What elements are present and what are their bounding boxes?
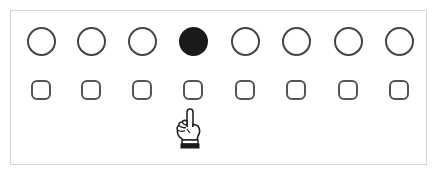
circle-option[interactable] [231,27,260,56]
square-option[interactable] [389,80,409,100]
square-option[interactable] [286,80,306,100]
circle-option[interactable] [385,27,414,56]
square-option[interactable] [132,80,152,100]
square-option[interactable] [31,80,51,100]
puzzle-panel [10,10,427,165]
circle-option[interactable] [77,27,106,56]
square-option[interactable] [338,80,358,100]
circle-option[interactable] [334,27,363,56]
circle-option[interactable] [27,27,56,56]
circle-selected[interactable] [179,27,208,56]
square-option[interactable] [183,80,203,100]
circle-option[interactable] [128,27,157,56]
square-option[interactable] [81,80,101,100]
pointing-hand-icon [170,107,210,151]
circle-option[interactable] [282,27,311,56]
square-option[interactable] [235,80,255,100]
